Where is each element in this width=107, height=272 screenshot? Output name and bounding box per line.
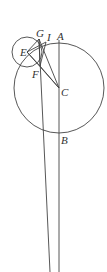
segment-E-I [27, 42, 46, 52]
segment-E-G [27, 39, 39, 52]
label-F: F [31, 68, 39, 80]
label-C: C [61, 86, 69, 98]
segment-G-C [39, 39, 59, 88]
label-G: G [36, 27, 44, 39]
line-G-down [39, 39, 50, 272]
segment-G-F [39, 39, 40, 66]
geometry-diagram: G I A E F C B [0, 0, 107, 272]
label-E: E [19, 46, 27, 58]
label-B: B [61, 134, 68, 146]
label-I: I [46, 31, 52, 43]
label-A: A [56, 30, 64, 42]
